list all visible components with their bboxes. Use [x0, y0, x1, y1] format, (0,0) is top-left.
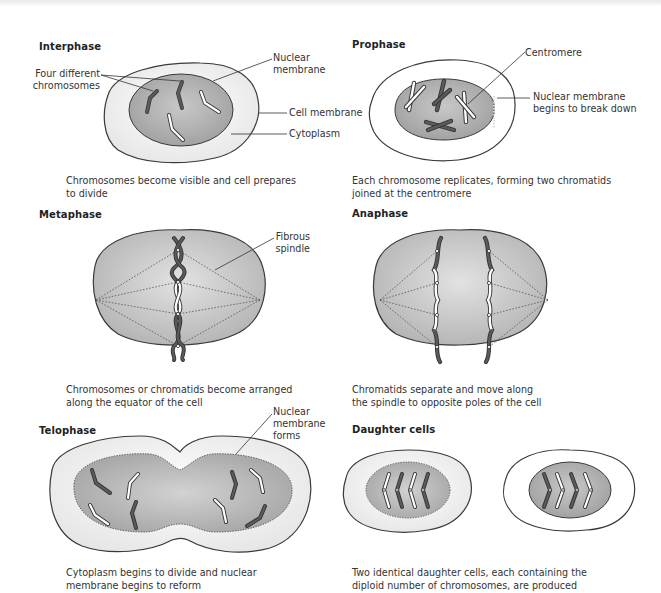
- caption-interphase: Chromosomes become visible and cell prep…: [66, 174, 296, 200]
- label-centromere: Centromere: [525, 47, 582, 59]
- caption-metaphase: Chromosomes or chromatids become arrange…: [66, 383, 292, 409]
- panel-title-prophase: Prophase: [352, 39, 406, 50]
- label-fibrous-spindle: Fibrous spindle: [262, 231, 310, 255]
- daughter-cell-left: [343, 450, 471, 532]
- panel-title-anaphase: Anaphase: [352, 208, 408, 219]
- caption-anaphase: Chromatids separate and move along the s…: [352, 383, 542, 409]
- caption-telophase: Cytoplasm begins to divide and nuclear m…: [66, 566, 257, 592]
- label-four-chromosomes: Four different chromosomes: [30, 68, 100, 92]
- label-nuclear-membrane: Nuclear membrane: [273, 52, 326, 76]
- metaphase-cell: [93, 230, 274, 360]
- panel-title-metaphase: Metaphase: [39, 209, 102, 220]
- caption-prophase: Each chromosome replicates, forming two …: [352, 174, 611, 200]
- daughter-cell-right: [503, 450, 634, 531]
- panel-title-interphase: Interphase: [39, 41, 101, 52]
- label-nuclear-membrane-breaks: Nuclear membrane begins to break down: [533, 91, 637, 115]
- panel-title-telophase: Telophase: [39, 425, 96, 436]
- panel-title-daughter-cells: Daughter cells: [352, 424, 435, 435]
- label-cytoplasm: Cytoplasm: [289, 128, 340, 140]
- anaphase-cell: [373, 230, 548, 362]
- prophase-cell: [369, 52, 530, 161]
- interphase-cell: [101, 59, 287, 163]
- label-cell-membrane: Cell membrane: [289, 107, 362, 119]
- caption-daughter-cells: Two identical daughter cells, each conta…: [352, 566, 587, 592]
- label-nuclear-membrane-forms: Nuclear membrane forms: [273, 406, 326, 442]
